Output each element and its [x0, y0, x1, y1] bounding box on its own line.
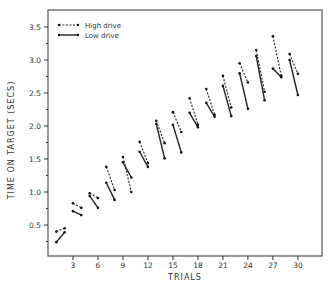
- data-point: [238, 62, 241, 65]
- series-high-drive: [55, 35, 299, 233]
- data-point: [105, 181, 108, 184]
- data-point: [213, 115, 216, 118]
- legend-high-marker: [77, 24, 79, 26]
- data-point: [247, 108, 250, 111]
- data-point: [55, 241, 58, 244]
- data-segment: [73, 211, 81, 215]
- data-point: [130, 191, 133, 194]
- data-point: [247, 81, 250, 84]
- x-tick-label: 27: [268, 261, 278, 270]
- legend-high-marker: [58, 24, 60, 26]
- y-tick-label: 2.0: [29, 122, 41, 131]
- y-tick-label: 2.5: [29, 89, 41, 98]
- x-tick-label: 3: [71, 261, 76, 270]
- data-segment: [256, 56, 264, 100]
- legend-low-marker: [77, 34, 79, 36]
- y-axis-label: TIME ON TARGET (SECS): [7, 81, 16, 201]
- data-point: [222, 75, 225, 78]
- data-point: [197, 126, 200, 129]
- x-tick-label: 30: [293, 261, 303, 270]
- data-point: [88, 195, 91, 198]
- x-tick-label: 24: [243, 261, 253, 270]
- data-point: [122, 156, 125, 159]
- data-segment: [56, 228, 64, 231]
- data-point: [188, 97, 191, 100]
- legend-low-label: Low drive: [85, 32, 119, 40]
- data-point: [280, 76, 283, 79]
- legend: High drive Low drive: [58, 22, 121, 40]
- x-tick-label: 9: [121, 261, 126, 270]
- data-point: [297, 94, 300, 97]
- data-segment: [56, 232, 64, 242]
- data-point: [97, 207, 100, 210]
- data-point: [97, 197, 100, 200]
- data-point: [113, 199, 116, 202]
- data-point: [230, 115, 233, 118]
- data-point: [80, 214, 83, 217]
- data-point: [130, 176, 133, 179]
- x-axis-label: TRIALS: [167, 273, 202, 282]
- data-segment: [73, 203, 81, 208]
- data-segment: [240, 73, 248, 109]
- data-point: [297, 73, 300, 76]
- data-point: [255, 49, 258, 52]
- data-point: [72, 202, 75, 205]
- data-point: [272, 67, 275, 70]
- y-tick-label: 0.5: [29, 221, 41, 230]
- data-point: [55, 230, 58, 233]
- x-tick-label: 18: [193, 261, 203, 270]
- data-point: [163, 142, 166, 145]
- data-point: [72, 210, 75, 213]
- data-point: [63, 227, 66, 230]
- data-point: [263, 99, 266, 102]
- data-point: [63, 231, 66, 234]
- data-segment: [106, 183, 114, 200]
- data-point: [288, 53, 291, 56]
- x-tick-label: 21: [218, 261, 228, 270]
- data-point: [122, 161, 125, 164]
- y-tick-label: 3.5: [29, 23, 41, 32]
- data-point: [255, 55, 258, 58]
- data-point: [238, 72, 241, 75]
- data-point: [147, 166, 150, 169]
- x-tick-label: 12: [143, 261, 153, 270]
- y-tick-label: 1.5: [29, 155, 41, 164]
- data-point: [138, 150, 141, 153]
- plot-frame: [48, 10, 322, 256]
- data-point: [205, 88, 208, 91]
- y-tick-label: 1.0: [29, 188, 41, 197]
- data-point: [88, 192, 91, 195]
- x-axis: 36912151821242730: [71, 256, 303, 270]
- y-tick-label: 3.0: [29, 56, 41, 65]
- legend-low-marker: [58, 34, 60, 36]
- x-tick-label: 15: [168, 261, 178, 270]
- data-point: [230, 106, 233, 109]
- legend-high-label: High drive: [85, 22, 121, 30]
- data-point: [172, 111, 175, 114]
- data-point: [155, 123, 158, 126]
- data-point: [180, 151, 183, 154]
- data-point: [172, 123, 175, 126]
- data-point: [105, 166, 108, 169]
- data-point: [138, 141, 141, 144]
- data-segment: [273, 69, 281, 78]
- data-point: [80, 207, 83, 210]
- data-point: [205, 102, 208, 105]
- data-point: [163, 157, 166, 160]
- chart: 0.51.01.52.02.53.03.5 36912151821242730 …: [0, 0, 333, 286]
- data-point: [155, 119, 158, 122]
- data-point: [113, 189, 116, 192]
- data-point: [272, 35, 275, 38]
- data-point: [188, 112, 191, 115]
- x-tick-label: 6: [96, 261, 101, 270]
- data-point: [180, 131, 183, 134]
- series-low-drive: [55, 55, 299, 244]
- y-axis: 0.51.01.52.02.53.03.5: [29, 23, 48, 242]
- data-point: [288, 59, 291, 62]
- data-point: [222, 84, 225, 87]
